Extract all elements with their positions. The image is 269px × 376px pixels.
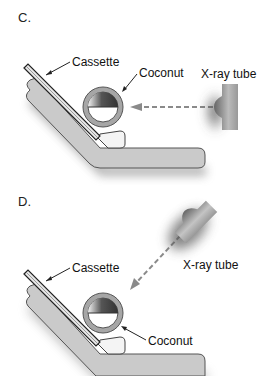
panel-d: D. <box>0 186 269 376</box>
coconut-label: Coconut <box>148 334 193 348</box>
cassette-label: Cassette <box>72 55 119 69</box>
xray-tube-label: X-ray tube <box>201 67 256 81</box>
diagram-c-graphic <box>0 0 269 186</box>
coconut-label: Coconut <box>139 66 184 80</box>
support-block <box>98 131 125 148</box>
coconut <box>83 87 123 127</box>
panel-c: C. <box>0 0 269 186</box>
xray-tube-label: X-ray tube <box>183 258 238 272</box>
coconut <box>83 293 123 333</box>
beam-arrowhead <box>130 103 142 111</box>
coconut-leader <box>124 328 146 340</box>
diagram-d-graphic <box>0 186 269 376</box>
cassette-label: Cassette <box>72 261 119 275</box>
support-block <box>98 337 125 354</box>
coconut-leader <box>124 74 137 90</box>
